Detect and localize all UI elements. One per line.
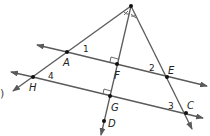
- point-vertex: [129, 4, 133, 8]
- angle-label-3: 3: [168, 101, 174, 111]
- label-F: F: [114, 70, 120, 81]
- point-F: [115, 62, 119, 66]
- label-G: G: [111, 102, 119, 113]
- angle-label-1: 1: [83, 44, 89, 54]
- geometry-diagram: A F E H G C D 1 2 3 4 ): [0, 0, 210, 136]
- right-angle-mark-G: [103, 89, 111, 94]
- label-A: A: [62, 57, 70, 68]
- point-G: [108, 94, 112, 98]
- point-C: [184, 111, 188, 115]
- ray-vertex-C: [131, 6, 192, 129]
- point-D: [102, 119, 106, 123]
- label-D: D: [108, 118, 116, 129]
- label-H: H: [29, 82, 37, 93]
- point-H: [31, 75, 35, 79]
- label-C: C: [187, 100, 194, 111]
- right-angle-mark-F: [110, 57, 118, 62]
- point-A: [65, 50, 69, 54]
- line-AE: [37, 45, 67, 52]
- edge-paren-fragment: ): [0, 87, 4, 100]
- line-AE-right: [67, 52, 207, 86]
- label-E: E: [168, 65, 175, 76]
- line-HC: [11, 72, 33, 77]
- angle-label-2: 2: [149, 63, 155, 73]
- angle-label-4: 4: [48, 71, 54, 81]
